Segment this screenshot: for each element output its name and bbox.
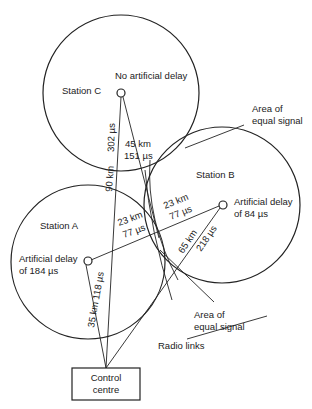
b-control-distance: 65 km bbox=[176, 227, 200, 255]
station-a-delay-1: Artificial delay bbox=[19, 253, 78, 264]
a-control-label: 35 km 118 µs bbox=[85, 271, 106, 329]
c-equal-time: 151 µs bbox=[124, 150, 153, 161]
station-c-delay: No artificial delay bbox=[115, 70, 188, 81]
c-control-time: 302 µs bbox=[105, 123, 117, 152]
equal-signal-top-leader bbox=[185, 125, 244, 148]
station-c-label: Station C bbox=[62, 85, 101, 96]
control-label-1: Control bbox=[91, 372, 122, 383]
station-b-label: Station B bbox=[196, 169, 235, 180]
equal-signal-bottom-2: equal signal bbox=[194, 321, 245, 332]
c-equal-distance: 45 km bbox=[125, 138, 151, 149]
station-b-delay-1: Artificial delay bbox=[234, 196, 293, 207]
station-b-marker bbox=[219, 201, 227, 209]
station-b-delay-2: of 84 µs bbox=[234, 208, 268, 219]
station-a-marker bbox=[84, 257, 92, 265]
b-control-time: 218 µs bbox=[194, 223, 219, 253]
c-control-distance: 90 km bbox=[103, 165, 116, 192]
equal-signal-bottom-1: Area of bbox=[194, 309, 225, 320]
navigation-system-diagram: Control centre Station C No artificial d… bbox=[0, 0, 312, 409]
equal-signal-top-1: Area of bbox=[252, 103, 283, 114]
station-c-marker bbox=[117, 89, 125, 97]
station-a-delay-2: of 184 µs bbox=[19, 265, 59, 276]
station-a-label: Station A bbox=[40, 220, 79, 231]
equal-signal-top-2: equal signal bbox=[252, 115, 303, 126]
radio-links-label: Radio links bbox=[158, 340, 205, 351]
equal-signal-bottom-leader bbox=[160, 250, 214, 302]
control-label-2: centre bbox=[93, 384, 119, 395]
